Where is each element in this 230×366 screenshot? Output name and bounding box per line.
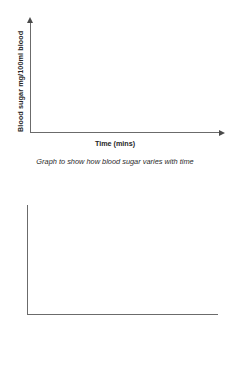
figure-blood-sugar: Blood sugar mg/100ml blood Time (mins) G…	[0, 0, 230, 183]
arrow-right-icon	[219, 130, 225, 136]
figure-caption-text: Graph to show how blood sugar varies wit…	[36, 157, 193, 166]
worksheet-page: Blood sugar mg/100ml blood Time (mins) G…	[0, 0, 230, 366]
plot-area-rate-of-growth	[27, 205, 218, 315]
x-axis-line	[27, 314, 218, 315]
y-axis-line	[30, 22, 31, 133]
x-axis-line	[30, 132, 220, 133]
plot-area-blood-sugar	[30, 22, 220, 133]
x-axis-label: Time (mins)	[0, 139, 230, 148]
y-axis-label-text: Blood sugar mg/100ml blood	[16, 31, 25, 132]
arrow-up-icon	[27, 17, 33, 23]
figure-rate-of-growth: Rate of growth arbitrary units↑ Age (yea…	[0, 183, 230, 366]
y-axis-line	[27, 205, 28, 315]
figure-caption: Graph to show how blood sugar varies wit…	[0, 157, 230, 166]
y-axis-label: Blood sugar mg/100ml blood	[16, 31, 25, 132]
x-axis-label-text: Time (mins)	[95, 139, 135, 148]
